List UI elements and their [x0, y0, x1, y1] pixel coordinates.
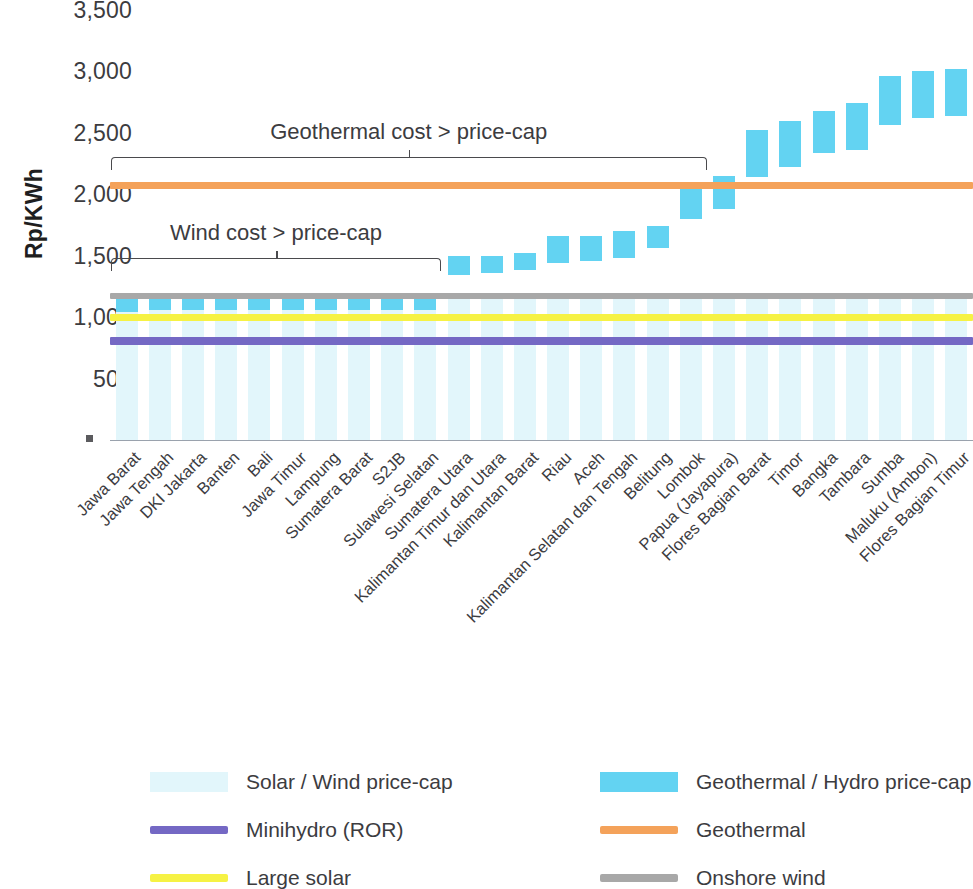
geothermal-hydro-price-cap-bar — [945, 69, 967, 116]
geothermal-hydro-price-cap-bar — [315, 297, 337, 309]
origin-marker — [86, 435, 93, 442]
bracket-label: Wind cost > price-cap — [170, 220, 382, 246]
minihydro-ror-line — [110, 337, 973, 345]
legend-item[interactable]: Geothermal — [600, 818, 806, 842]
geothermal-hydro-price-cap-bar — [414, 297, 436, 309]
geothermal-hydro-price-cap-bar — [215, 297, 237, 309]
geothermal-hydro-price-cap-bar — [149, 297, 171, 309]
chart-figure: Rp/KWh 3,5003,0002,5002,0001,5001,000500… — [0, 0, 973, 889]
geothermal-hydro-price-cap-bar — [282, 297, 304, 309]
geothermal-hydro-price-cap-bar — [813, 111, 835, 153]
bracket-center-tick — [409, 150, 411, 158]
legend-item[interactable]: Large solar — [150, 866, 351, 889]
large-solar-line — [110, 314, 973, 321]
geothermal-hydro-price-cap-bar — [547, 236, 569, 263]
legend-label: Large solar — [246, 866, 351, 889]
geothermal-hydro-price-cap-bar — [116, 297, 138, 312]
geothermal-hydro-price-cap-bar — [481, 256, 503, 273]
legend-label: Geothermal / Hydro price-cap — [696, 770, 971, 794]
legend-swatch-icon — [600, 772, 678, 792]
bracket-center-tick — [276, 251, 278, 259]
legend-item[interactable]: Onshore wind — [600, 866, 826, 889]
legend-swatch-icon — [150, 772, 228, 792]
geothermal-hydro-price-cap-bar — [514, 253, 536, 270]
bracket-span — [111, 258, 442, 271]
onshore-wind-line — [110, 293, 973, 299]
geothermal-hydro-price-cap-bar — [879, 76, 901, 125]
bracket-span — [111, 157, 707, 170]
geothermal-hydro-price-cap-bar — [613, 231, 635, 258]
legend-item[interactable]: Geothermal / Hydro price-cap — [600, 770, 971, 794]
geothermal-hydro-price-cap-bar — [746, 130, 768, 177]
legend-label: Minihydro (ROR) — [246, 818, 404, 842]
legend-swatch-icon — [600, 874, 678, 882]
legend-swatch-icon — [150, 874, 228, 882]
geothermal-hydro-price-cap-bar — [580, 236, 602, 261]
geothermal-line — [110, 182, 973, 189]
legend-item[interactable]: Solar / Wind price-cap — [150, 770, 453, 794]
geothermal-hydro-price-cap-bar — [680, 186, 702, 219]
geothermal-hydro-price-cap-bar — [846, 103, 868, 150]
chart-legend: Solar / Wind price-capMinihydro (ROR)Lar… — [150, 770, 973, 889]
geothermal-hydro-price-cap-bar — [713, 176, 735, 209]
x-axis-tick-labels: Jawa BaratJawa TengahDKI JakartaBantenBa… — [110, 444, 973, 644]
legend-label: Geothermal — [696, 818, 806, 842]
geothermal-hydro-price-cap-bar — [348, 297, 370, 309]
geothermal-hydro-price-cap-bar — [381, 297, 403, 309]
legend-swatch-icon — [150, 826, 228, 834]
geothermal-hydro-price-cap-bar — [912, 71, 934, 118]
geothermal-hydro-price-cap-bar — [248, 297, 270, 309]
geothermal-hydro-price-cap-bar — [182, 297, 204, 309]
legend-label: Solar / Wind price-cap — [246, 770, 453, 794]
geothermal-hydro-price-cap-bar — [647, 226, 669, 248]
geothermal-hydro-price-cap-bar — [779, 121, 801, 168]
legend-item[interactable]: Minihydro (ROR) — [150, 818, 404, 842]
legend-swatch-icon — [600, 826, 678, 834]
bracket-label: Geothermal cost > price-cap — [270, 119, 547, 145]
geothermal-hydro-price-cap-bar — [448, 256, 470, 276]
legend-label: Onshore wind — [696, 866, 826, 889]
